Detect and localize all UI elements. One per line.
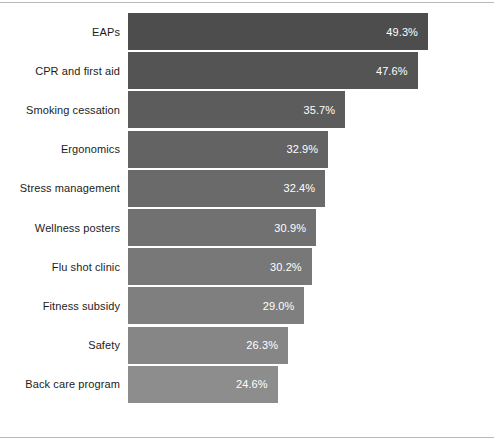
bar-value-label: 29.0%: [263, 300, 305, 312]
chart-bar-row: Safety26.3%: [0, 327, 494, 364]
top-divider-rule: [0, 2, 494, 3]
bar-value-label: 30.9%: [274, 222, 316, 234]
bottom-divider-rule: [0, 437, 494, 438]
category-label: Smoking cessation: [0, 104, 128, 116]
bar: 30.2%: [128, 248, 312, 285]
category-label: Back care program: [0, 378, 128, 390]
bar: 30.9%: [128, 209, 316, 246]
category-label: Stress management: [0, 182, 128, 194]
bar-track: 26.3%: [128, 327, 494, 364]
bar-track: 30.9%: [128, 209, 494, 246]
bar: 29.0%: [128, 287, 304, 324]
category-label: Flu shot clinic: [0, 261, 128, 273]
bar-track: 32.9%: [128, 131, 494, 168]
category-label: Wellness posters: [0, 222, 128, 234]
bar-value-label: 35.7%: [304, 104, 346, 116]
bar: 49.3%: [128, 13, 428, 50]
bar: 24.6%: [128, 366, 278, 403]
bar-track: 49.3%: [128, 13, 494, 50]
chart-bar-row: Smoking cessation35.7%: [0, 91, 494, 128]
bar-value-label: 49.3%: [386, 26, 428, 38]
chart-bar-row: Ergonomics32.9%: [0, 131, 494, 168]
bar-track: 29.0%: [128, 287, 494, 324]
bar-value-label: 47.6%: [376, 65, 418, 77]
bar-value-label: 32.4%: [283, 182, 325, 194]
category-label: EAPs: [0, 26, 128, 38]
bar-track: 47.6%: [128, 52, 494, 89]
chart-bar-row: Wellness posters30.9%: [0, 209, 494, 246]
bar-value-label: 32.9%: [286, 143, 328, 155]
chart-bar-row: Fitness subsidy29.0%: [0, 287, 494, 324]
bar-track: 32.4%: [128, 170, 494, 207]
category-label: Ergonomics: [0, 143, 128, 155]
chart-bar-row: EAPs49.3%: [0, 13, 494, 50]
bar: 35.7%: [128, 91, 345, 128]
bar-value-label: 24.6%: [236, 378, 278, 390]
chart-bar-row: CPR and first aid47.6%: [0, 52, 494, 89]
bar-track: 35.7%: [128, 91, 494, 128]
bar: 32.9%: [128, 131, 328, 168]
category-label: Safety: [0, 339, 128, 351]
plot-area: EAPs49.3%CPR and first aid47.6%Smoking c…: [0, 13, 494, 407]
bar-value-label: 26.3%: [246, 339, 288, 351]
bar: 32.4%: [128, 170, 325, 207]
bar-track: 30.2%: [128, 248, 494, 285]
category-label: Fitness subsidy: [0, 300, 128, 312]
category-label: CPR and first aid: [0, 65, 128, 77]
bar-track: 24.6%: [128, 366, 494, 403]
chart-bar-row: Flu shot clinic30.2%: [0, 248, 494, 285]
chart-bar-row: Back care program24.6%: [0, 366, 494, 403]
bar: 26.3%: [128, 327, 288, 364]
bar: 47.6%: [128, 52, 418, 89]
bar-chart-figure: EAPs49.3%CPR and first aid47.6%Smoking c…: [0, 0, 494, 441]
bar-value-label: 30.2%: [270, 261, 312, 273]
chart-bar-row: Stress management32.4%: [0, 170, 494, 207]
